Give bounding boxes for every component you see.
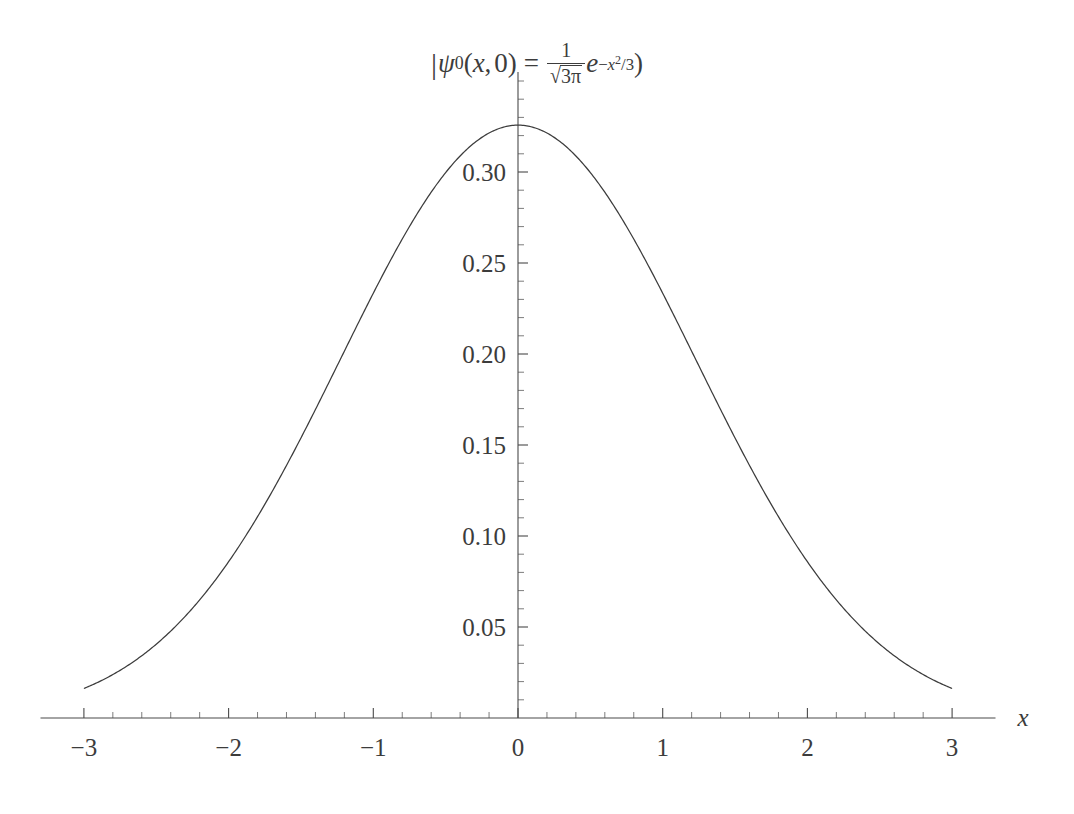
x-axis-label: x	[1017, 704, 1029, 731]
y-tick-label: 0.15	[462, 432, 506, 459]
x-tick-label: −1	[360, 734, 387, 761]
x-tick-label: 0	[512, 734, 525, 761]
y-axis-tick-labels: 0.050.100.150.200.250.30	[462, 159, 506, 641]
chart-plot-area: −3−2−10123 0.050.100.150.200.250.30 x	[0, 0, 1074, 814]
x-tick-label: −2	[215, 734, 242, 761]
x-tick-label: 2	[801, 734, 814, 761]
y-tick-label: 0.20	[462, 341, 506, 368]
x-tick-label: −3	[71, 734, 98, 761]
y-axis-major-ticks	[518, 172, 528, 627]
y-tick-label: 0.25	[462, 250, 506, 277]
y-tick-label: 0.10	[462, 523, 506, 550]
plot-figure: | ψ 0 ( x , 0 ) = 1 √ 3π e −x2/3 )	[0, 0, 1074, 814]
y-tick-label: 0.30	[462, 159, 506, 186]
x-axis-tick-labels: −3−2−10123	[71, 734, 959, 761]
x-tick-label: 1	[656, 734, 669, 761]
y-axis-minor-ticks	[518, 81, 524, 700]
y-tick-label: 0.05	[462, 614, 506, 641]
x-tick-label: 3	[946, 734, 959, 761]
